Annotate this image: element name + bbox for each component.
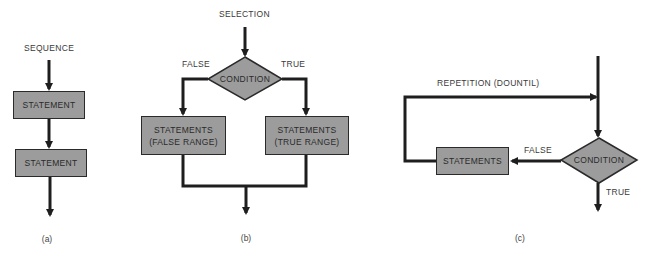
false-label-b: FALSE [182, 59, 210, 69]
statement-box-2-label: STATEMENT [25, 157, 78, 169]
statement-box-1-label: STATEMENT [23, 99, 76, 111]
statement-box-2: STATEMENT [15, 149, 87, 177]
true-label-c: TRUE [606, 187, 630, 197]
caption-c: (c) [515, 233, 525, 243]
false-label-c: FALSE [524, 145, 552, 155]
statement-box-1: STATEMENT [13, 91, 85, 119]
false-branch-line [183, 79, 208, 114]
true-range-line-1: STATEMENTS [278, 124, 337, 136]
true-range-box: STATEMENTS (TRUE RANGE) [265, 116, 349, 155]
true-branch-line [282, 79, 306, 114]
true-label-b: TRUE [281, 59, 305, 69]
false-range-line-1: STATEMENTS [154, 124, 213, 136]
loop-statements-label: STATEMENTS [443, 155, 502, 167]
caption-b: (b) [241, 233, 251, 243]
sequence-title: SEQUENCE [24, 43, 74, 53]
false-range-line-2: (FALSE RANGE) [149, 136, 218, 148]
caption-a: (a) [42, 234, 52, 244]
merge-line [183, 154, 306, 186]
repetition-title: REPETITION (DOUNTIL) [437, 78, 539, 88]
false-range-box: STATEMENTS (FALSE RANGE) [141, 116, 226, 155]
true-range-line-2: (TRUE RANGE) [275, 136, 340, 148]
condition-label-c: CONDITION [574, 155, 624, 165]
selection-title: SELECTION [219, 9, 270, 19]
condition-label-b: CONDITION [220, 74, 270, 84]
loop-statements-box: STATEMENTS [436, 147, 509, 175]
